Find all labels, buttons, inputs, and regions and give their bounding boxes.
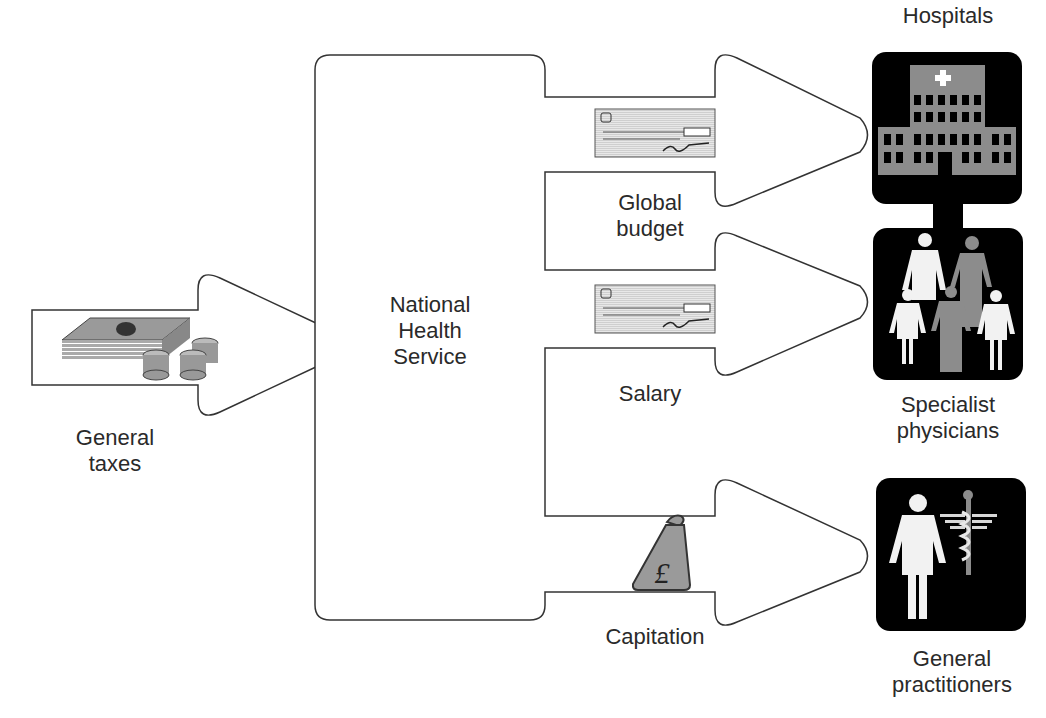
target-label-specialists: Specialist physicians: [868, 392, 1028, 444]
specialists-tile: [873, 228, 1023, 380]
source-label-line2: taxes: [60, 451, 170, 477]
flow-label-salary: Salary: [600, 381, 700, 407]
target-label-hospitals: Hospitals: [880, 3, 1016, 29]
flow-label-line1: Salary: [600, 381, 700, 407]
flow-label-line1: Capitation: [590, 624, 720, 650]
hub-label: National Health Service: [370, 292, 490, 370]
target-label-line1: Specialist: [868, 392, 1028, 418]
source-label-line1: General: [60, 425, 170, 451]
pound-sign: £: [655, 556, 671, 589]
target-label-gps: General practitioners: [862, 646, 1042, 698]
hub-label-line2: Health: [370, 318, 490, 344]
flow-label-capitation: Capitation: [590, 624, 720, 650]
target-label-line1: General: [862, 646, 1042, 672]
flow-label-line2: budget: [605, 216, 695, 242]
hub-label-line3: Service: [370, 344, 490, 370]
flow-label-global-budget: Global budget: [605, 190, 695, 242]
source-label: General taxes: [60, 425, 170, 477]
target-label-line2: practitioners: [862, 672, 1042, 698]
gp-tile: [876, 478, 1026, 631]
target-label-line2: physicians: [868, 418, 1028, 444]
hospital-tile: [872, 52, 1022, 204]
diagram-canvas: £: [0, 0, 1046, 718]
flow-label-line1: Global: [605, 190, 695, 216]
hub-label-line1: National: [370, 292, 490, 318]
cheque-icon: [595, 285, 715, 333]
cheque-icon: [595, 109, 715, 157]
target-label-line1: Hospitals: [880, 3, 1016, 29]
